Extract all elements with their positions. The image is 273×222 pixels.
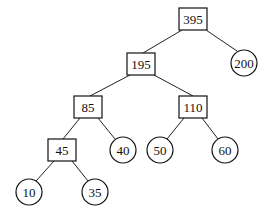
edge-195-85 (90, 75, 130, 96)
node-label: 10 (23, 185, 36, 200)
edge-395-195 (143, 30, 182, 53)
node-label: 35 (89, 185, 102, 200)
node-label: 45 (56, 143, 69, 158)
huffman-tree-diagram: 395 195 85 110 45 200 40 50 60 10 35 (0, 0, 273, 222)
edge-45-10 (36, 161, 54, 181)
leaf-node-60: 60 (212, 137, 238, 163)
edge-110-50 (167, 118, 184, 139)
leaf-node-35: 35 (82, 179, 108, 205)
internal-node-395: 395 (179, 8, 207, 30)
leaf-node-50: 50 (147, 137, 173, 163)
node-label: 200 (234, 56, 254, 71)
leaf-node-10: 10 (16, 179, 42, 205)
edge-110-60 (202, 118, 218, 139)
edge-195-110 (154, 75, 193, 96)
node-label: 40 (117, 143, 130, 158)
node-label: 60 (219, 143, 232, 158)
node-label: 50 (154, 143, 167, 158)
node-label: 195 (131, 57, 151, 72)
internal-node-195: 195 (127, 53, 155, 75)
internal-node-110: 110 (179, 96, 207, 118)
node-label: 395 (183, 12, 203, 27)
leaf-node-200: 200 (231, 50, 257, 76)
internal-node-45: 45 (48, 139, 76, 161)
edge-45-35 (72, 161, 88, 181)
edge-395-200 (206, 30, 237, 51)
node-label: 110 (183, 100, 202, 115)
node-label: 85 (82, 100, 95, 115)
leaf-node-40: 40 (110, 137, 136, 163)
edge-85-40 (98, 118, 115, 139)
edge-85-45 (63, 118, 80, 139)
internal-node-85: 85 (74, 96, 102, 118)
